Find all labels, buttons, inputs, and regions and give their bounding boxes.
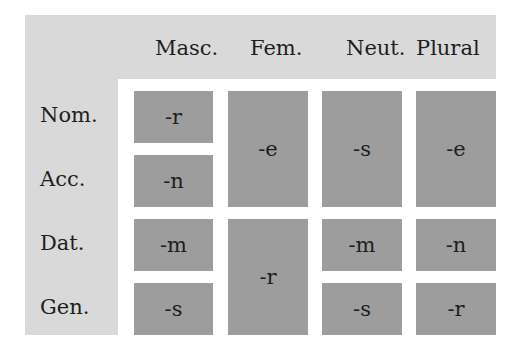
cell-masc-acc: -n <box>134 155 213 207</box>
cell-masc-gen: -s <box>134 283 213 335</box>
row-label-dat: Dat. <box>40 231 84 255</box>
cell-plural-gen: -r <box>416 283 496 335</box>
cell-plural-nom-acc: -e <box>416 91 496 207</box>
cell-neut-dat: -m <box>322 219 402 271</box>
row-label-acc: Acc. <box>40 167 85 191</box>
cell-fem-dat-gen: -r <box>228 219 308 335</box>
cell-fem-nom-acc: -e <box>228 91 308 207</box>
cell-masc-nom: -r <box>134 91 213 143</box>
cell-masc-dat: -m <box>134 219 213 271</box>
column-header-fem: Fem. <box>250 36 302 60</box>
column-header-neut: Neut. <box>346 36 405 60</box>
cell-neut-nom-acc: -s <box>322 91 402 207</box>
column-header-masc: Masc. <box>155 36 218 60</box>
row-label-nom: Nom. <box>40 103 98 127</box>
column-header-plural: Plural <box>416 36 480 60</box>
cell-plural-dat: -n <box>416 219 496 271</box>
cell-neut-gen: -s <box>322 283 402 335</box>
row-label-gen: Gen. <box>40 295 89 319</box>
